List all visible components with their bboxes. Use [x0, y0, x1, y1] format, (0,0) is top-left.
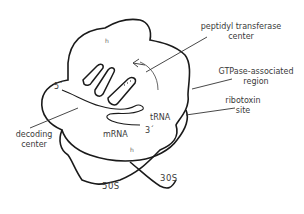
label-three-prime: 3´	[145, 126, 154, 136]
label-peptidyl-transferase: peptidyl transferase center	[186, 22, 296, 42]
label-ribotoxin: ribotoxin site	[218, 96, 268, 116]
marker-top: h	[105, 36, 109, 46]
ribotoxin-line-1: ribotoxin	[218, 96, 268, 106]
gtpase-line-1: GTPase-associated	[212, 67, 300, 77]
leader-peptidyl	[146, 37, 207, 72]
peptidyl-line-1: peptidyl transferase	[186, 22, 296, 32]
decoding-line-2: center	[8, 140, 60, 150]
ribotoxin-line-2: site	[218, 106, 268, 116]
label-mrna: mRNA	[103, 130, 128, 140]
label-decoding: decoding center	[8, 130, 60, 150]
trna-shape-3	[108, 78, 135, 105]
label-trna: tRNA	[150, 113, 170, 123]
label-gtpase: GTPase-associated region	[212, 67, 300, 87]
marker-bottom: h	[130, 145, 134, 155]
peptidyl-line-2: center	[186, 32, 296, 42]
label-five-prime: 5´	[54, 82, 63, 92]
gtpase-line-2: region	[212, 77, 300, 87]
label-50s: 50S	[102, 181, 120, 191]
label-30s: 30S	[160, 173, 178, 183]
decoding-line-1: decoding	[8, 130, 60, 140]
ribosome-diagram: peptidyl transferase center GTPase-assoc…	[0, 0, 304, 214]
